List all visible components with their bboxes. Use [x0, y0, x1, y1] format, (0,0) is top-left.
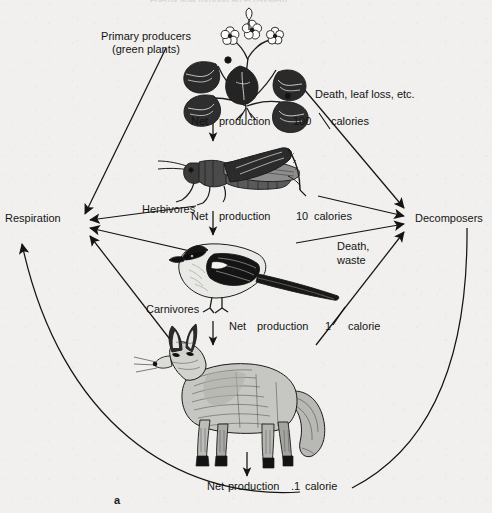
net-production-4-word: production: [228, 480, 279, 493]
net-production-4-prefix: Net: [207, 480, 224, 493]
net-production-4-unit: calorie: [305, 480, 337, 493]
grasshopper-illustration: [158, 148, 306, 205]
net-production-2-value: 10: [296, 210, 308, 223]
label-herbivores: Herbivores: [142, 203, 195, 216]
label-death-waste-line1: Death,: [337, 240, 369, 253]
plant-illustration: [184, 8, 308, 133]
label-death-leaf-loss: Death, leaf loss, etc.: [315, 88, 415, 101]
panel-label: a: [114, 494, 120, 506]
illustration-layer: [0, 0, 492, 513]
label-primary-producers: Primary producers (green plants): [86, 30, 206, 56]
label-primary-producers-line2: (green plants): [86, 43, 206, 56]
label-carnivores: Carnivores: [146, 303, 199, 316]
net-production-3-word: production: [257, 320, 308, 333]
net-production-1-value: 100: [293, 115, 311, 128]
net-production-3-prefix: Net: [229, 320, 246, 333]
net-production-3-value: 1: [325, 320, 331, 333]
label-decomposers: Decomposers: [415, 212, 483, 225]
net-production-3-unit: calorie: [348, 320, 380, 333]
net-production-1-unit: calories: [331, 115, 369, 128]
figure-canvas: energy flow through an ecosystem: [0, 0, 492, 513]
net-production-1-prefix: Net: [191, 115, 208, 128]
net-production-4-value: .1: [291, 480, 300, 493]
net-production-2-prefix: Net: [191, 210, 208, 223]
net-production-2-unit: calories: [314, 210, 352, 223]
label-primary-producers-line1: Primary producers: [86, 30, 206, 43]
label-respiration: Respiration: [5, 212, 61, 225]
net-production-2-word: production: [219, 210, 270, 223]
label-death-waste-line2: waste: [337, 254, 366, 267]
fox-illustration: [134, 324, 325, 468]
net-production-1-word: production: [219, 115, 270, 128]
